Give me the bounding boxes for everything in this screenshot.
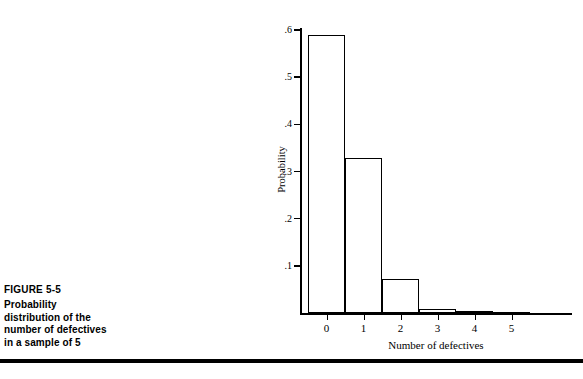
caption-line: number of defectives xyxy=(4,324,154,337)
y-axis-tick-label: .2 xyxy=(268,214,292,224)
caption-line: distribution of the xyxy=(4,312,154,325)
x-axis-tick-label: 2 xyxy=(389,322,413,334)
figure-caption-text: Probability distribution of the number o… xyxy=(4,299,154,349)
caption-line: Probability xyxy=(4,299,154,312)
x-axis-tick xyxy=(475,314,476,320)
x-axis-tick-label: 5 xyxy=(500,322,524,334)
y-axis-tick xyxy=(294,124,301,126)
y-axis-tick-label: .4 xyxy=(268,119,292,129)
probability-distribution-chart: Probability .6.5.4.3.2.1 012345 Number o… xyxy=(250,14,580,354)
x-axis-tick xyxy=(438,314,439,320)
bar xyxy=(345,158,382,313)
x-axis-line xyxy=(300,313,572,315)
bar xyxy=(419,309,456,313)
bar xyxy=(456,311,493,313)
x-axis-tick-label: 4 xyxy=(463,322,487,334)
x-axis-tick xyxy=(364,314,365,320)
x-axis-title: Number of defectives xyxy=(300,339,572,351)
figure-number-label: FIGURE 5-5 xyxy=(4,283,154,296)
figure-caption-block: FIGURE 5-5 Probability distribution of t… xyxy=(4,283,154,349)
y-axis-tick xyxy=(294,76,301,78)
x-axis-tick xyxy=(327,314,328,320)
y-axis-tick-label: .1 xyxy=(268,261,292,271)
page-bottom-rule xyxy=(0,359,583,363)
bar xyxy=(493,312,530,314)
y-axis-tick xyxy=(294,218,301,220)
y-axis-tick xyxy=(294,171,301,173)
x-axis-tick-label: 0 xyxy=(315,322,339,334)
x-axis-tick-label: 1 xyxy=(352,322,376,334)
caption-line: in a sample of 5 xyxy=(4,337,154,350)
y-axis-tick-label: .5 xyxy=(268,72,292,82)
y-axis-tick xyxy=(294,265,301,267)
x-axis-tick-label: 3 xyxy=(426,322,450,334)
x-axis-tick xyxy=(512,314,513,320)
bar xyxy=(308,35,345,313)
y-axis-tick xyxy=(294,29,301,31)
y-axis-tick-label: .3 xyxy=(268,167,292,177)
x-axis-tick xyxy=(401,314,402,320)
y-axis-tick-label: .6 xyxy=(268,25,292,35)
bar xyxy=(382,279,419,313)
